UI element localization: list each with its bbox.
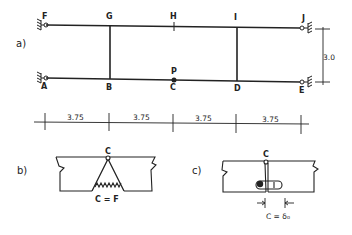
detail-c-beam <box>222 160 318 192</box>
detail-c-gap-dimension <box>257 198 294 208</box>
node-label-C: C <box>170 83 176 92</box>
part-a-label: a) <box>16 38 26 49</box>
detail-b-beam <box>56 156 156 191</box>
height-dimension-label: 3.0 <box>323 53 335 62</box>
load-label-P: P <box>171 67 177 76</box>
part-b-label: b) <box>17 165 27 176</box>
span-label-2: 3.75 <box>133 113 150 122</box>
span-label-3: 3.75 <box>195 114 212 123</box>
node-label-A: A <box>41 82 48 91</box>
node-label-E: E <box>299 86 304 95</box>
support-J-icon <box>300 22 312 33</box>
node-label-J: J <box>301 14 305 23</box>
part-c-label: c) <box>192 165 201 176</box>
structural-diagram: F G H I J A B C D E P a) 3.0 3.75 3.75 3… <box>0 0 352 235</box>
detail-c-hinge-label: C <box>263 150 269 159</box>
span-label-4: 3.75 <box>262 115 279 124</box>
node-label-B: B <box>106 83 112 92</box>
node-label-D: D <box>234 84 241 93</box>
node-label-F: F <box>42 12 47 21</box>
load-point-marker <box>172 78 177 83</box>
top-beam <box>46 25 300 28</box>
span-label-1: 3.75 <box>67 113 84 122</box>
detail-b-hinge-label: C <box>105 147 111 156</box>
detail-b-spring-label: C = F <box>95 195 119 204</box>
detail-c-bolt <box>257 181 263 187</box>
node-label-H: H <box>170 12 177 21</box>
node-label-I: I <box>234 13 237 22</box>
detail-c-gap-label: C = δ₀ <box>266 212 290 221</box>
node-label-G: G <box>106 12 113 21</box>
